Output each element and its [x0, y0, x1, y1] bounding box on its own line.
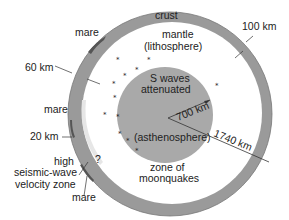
svg-text:*: *	[103, 111, 107, 119]
svg-text:*: *	[123, 72, 127, 80]
core-label-line2: attenuated	[141, 83, 191, 95]
crust-60-arrow-outer	[55, 66, 72, 73]
svg-text:*: *	[126, 137, 130, 145]
crust-20km-label: 20 km	[30, 130, 59, 142]
asthenosphere-label: (asthenosphere)	[134, 131, 210, 143]
crust-label: crust	[155, 9, 178, 21]
svg-text:*: *	[118, 130, 122, 138]
svg-text:*: *	[112, 80, 116, 88]
svg-text:*: *	[135, 66, 139, 74]
svg-text:*: *	[215, 82, 219, 90]
mare-mid-label: mare	[44, 103, 68, 115]
mare-top-label: mare	[75, 26, 99, 38]
svg-text:*: *	[116, 56, 120, 64]
svg-text:*: *	[135, 147, 139, 155]
crust-100-arrow-outer	[246, 36, 253, 42]
svg-text:*: *	[147, 56, 151, 64]
svg-text:*: *	[113, 94, 117, 102]
mantle-label: mantle	[162, 28, 194, 40]
question-mark: ?	[95, 153, 101, 165]
high-zone-label-line2: seismic-wave	[14, 166, 77, 178]
crust-60km-label: 60 km	[25, 61, 54, 73]
mare-bottom-label: mare	[72, 191, 96, 203]
svg-text:*: *	[116, 113, 120, 121]
high-zone-label-line3: velocity zone	[15, 178, 76, 190]
moonquake-label-line2: moonquakes	[139, 172, 199, 184]
moon-diagram: ** ** ** ** ** ** crust mantle (lithosph…	[0, 0, 289, 220]
lithosphere-label: (lithosphere)	[144, 40, 202, 52]
crust-100km-label: 100 km	[242, 20, 277, 32]
